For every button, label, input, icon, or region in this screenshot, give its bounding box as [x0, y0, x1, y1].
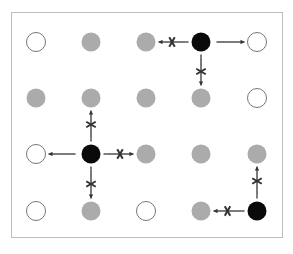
node-gray-r1-c2 [137, 89, 156, 108]
blocked-arrow-icon [86, 167, 96, 199]
node-gray-r3-c3 [192, 202, 211, 221]
arrow-icon [49, 152, 76, 156]
node-black-r3-c4 [248, 202, 267, 221]
blocked-arrow-icon [159, 37, 189, 47]
node-white-r3-c0 [27, 202, 46, 221]
node-gray-r3-c1 [82, 202, 101, 221]
node-gray-r0-c2 [137, 33, 156, 52]
node-white-r2-c0 [27, 145, 46, 164]
node-gray-r1-c3 [192, 89, 211, 108]
node-white-r0-c4 [248, 33, 267, 52]
node-black-r2-c1 [82, 145, 101, 164]
node-gray-r1-c0 [27, 89, 46, 108]
node-gray-r0-c1 [82, 33, 101, 52]
blocked-arrow-icon [252, 167, 262, 199]
arrow-icon [217, 40, 245, 44]
blocked-arrow-icon [214, 206, 245, 216]
node-white-r0-c0 [27, 33, 46, 52]
node-gray-r1-c1 [82, 89, 101, 108]
blocked-arrow-icon [104, 149, 134, 159]
blocked-arrow-icon [196, 55, 206, 86]
blocked-arrow-icon [86, 111, 96, 142]
node-white-r1-c4 [248, 89, 267, 108]
node-white-r3-c2 [137, 202, 156, 221]
node-gray-r2-c4 [248, 145, 267, 164]
node-gray-r2-c2 [137, 145, 156, 164]
grid-diagram [0, 0, 293, 254]
node-black-r0-c3 [192, 33, 211, 52]
node-gray-r2-c3 [192, 145, 211, 164]
